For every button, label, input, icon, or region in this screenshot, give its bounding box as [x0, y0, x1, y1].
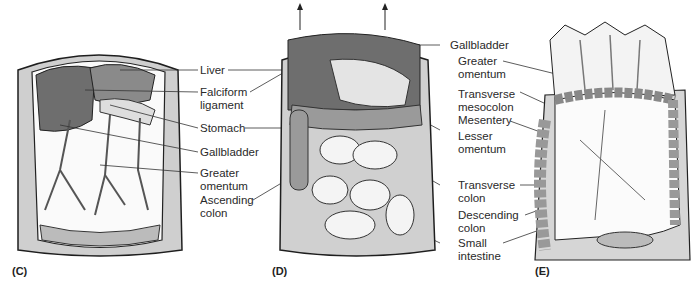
label-greater-omentum-e: Greater omentum [458, 55, 506, 81]
label-small-intestine: Small intestine [458, 237, 501, 263]
label-lesser-omentum: Lesser omentum [458, 130, 506, 156]
label-descending-colon: Descending colon [458, 209, 519, 235]
label-mesentery: Mesentery [458, 114, 512, 127]
panel-e: (E) [525, 0, 699, 290]
label-gallbladder-d: Gallbladder [450, 39, 509, 52]
panel-label-d: (D) [272, 265, 287, 277]
panel-d: (D) [270, 0, 440, 290]
label-ascending-colon: Ascending colon [200, 194, 254, 220]
panel-label-e: (E) [535, 265, 550, 277]
abdomen-illustration-d [270, 0, 440, 290]
label-greater-omentum-c: Greater omentum [200, 167, 248, 193]
label-falciform-ligament: Falciform ligament [200, 86, 247, 112]
abdomen-illustration-e [525, 0, 699, 290]
label-transverse-colon: Transverse colon [458, 179, 515, 205]
label-stomach: Stomach [200, 122, 245, 135]
label-liver: Liver [200, 64, 225, 77]
label-gallbladder-c: Gallbladder [200, 146, 259, 159]
label-transverse-mesocolon: Transverse mesocolon [458, 88, 515, 114]
